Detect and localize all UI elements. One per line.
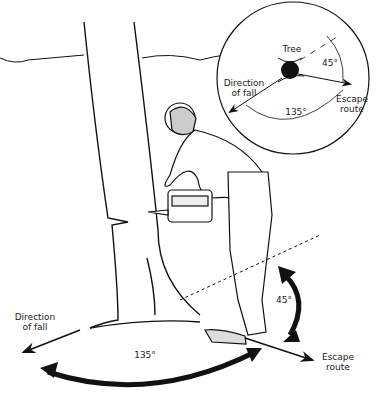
label-angle-135: 135° [130, 350, 160, 360]
inset-label-angle-45: 45° [320, 58, 340, 68]
inset-label-escape-route: Escape route [335, 94, 369, 114]
label-escape-route: Escape route [318, 352, 358, 372]
treeline [0, 54, 250, 62]
tree-trunk [84, 22, 200, 328]
angle-45-arc [285, 275, 299, 335]
direction-of-fall-arrow [24, 330, 80, 352]
inset-label-tree: Tree [280, 44, 304, 54]
label-direction-of-fall: Direction of fall [10, 312, 60, 332]
label-angle-45: 45° [272, 295, 296, 305]
inset-label-direction-of-fall: Direction of fall [221, 78, 267, 98]
inset-label-angle-135: 135° [283, 107, 309, 117]
chainsaw [148, 190, 212, 222]
